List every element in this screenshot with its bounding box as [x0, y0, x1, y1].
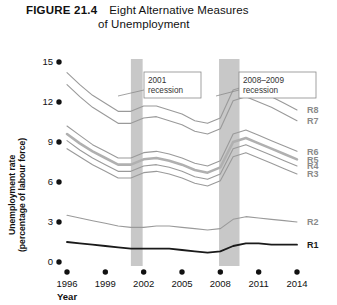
series-line-r3: [67, 149, 297, 186]
x-tick-dot-2014: [294, 269, 299, 274]
y-axis-ticks: 03691215: [42, 56, 61, 267]
recession-callouts: 2001recession2008–2009recession: [118, 72, 316, 98]
series-line-r1: [67, 242, 297, 253]
y-tick-dot-12: [56, 99, 61, 104]
series-end-labels: R8R7R6R5R4R3R2R1: [307, 105, 319, 250]
y-tick-label-0: 0: [48, 256, 53, 267]
figure-container: FIGURE 21.4Eight Alternative Measures of…: [0, 0, 337, 305]
callout-text-line2-2: recession: [243, 86, 278, 95]
x-tick-label-2002: 2002: [133, 278, 154, 289]
x-tick-dot-2002: [141, 269, 146, 274]
x-tick-dot-2005: [179, 269, 184, 274]
series-line-r5: [67, 134, 297, 173]
x-tick-label-2011: 2011: [248, 278, 268, 289]
y-axis-title-line-2: (percentage of labour force): [17, 138, 27, 252]
x-tick-label-1996: 1996: [56, 278, 77, 289]
series-lines: [67, 73, 297, 253]
y-tick-label-3: 3: [48, 216, 53, 227]
x-tick-label-1999: 1999: [95, 278, 116, 289]
x-tick-label-2008: 2008: [210, 278, 231, 289]
y-tick-dot-15: [56, 59, 61, 64]
series-line-r2: [67, 215, 297, 230]
callout-text-line1-2: 2008–2009: [243, 76, 284, 85]
y-axis-title-line-1: Unemployment rate: [7, 155, 17, 235]
chart-plot-area: 03691215 1996199920022005200820112014 R8…: [0, 0, 337, 305]
y-tick-dot-9: [56, 139, 61, 144]
y-tick-label-6: 6: [48, 176, 53, 187]
x-tick-dot-1999: [103, 269, 108, 274]
x-axis-title: Year: [57, 291, 77, 302]
x-tick-label-2005: 2005: [171, 278, 192, 289]
x-tick-dot-2008: [218, 269, 223, 274]
x-axis-ticks: 1996199920022005200820112014: [56, 269, 307, 289]
x-tick-label-2014: 2014: [286, 278, 307, 289]
series-label-r7: R7: [307, 116, 319, 126]
y-tick-dot-6: [56, 179, 61, 184]
series-label-r3: R3: [307, 169, 319, 179]
y-tick-label-12: 12: [42, 96, 53, 107]
y-tick-label-15: 15: [42, 56, 53, 67]
y-tick-dot-0: [56, 259, 61, 264]
x-tick-dot-2011: [256, 269, 261, 274]
series-label-r8: R8: [307, 105, 319, 115]
callout-text-line2-1: recession: [148, 86, 183, 95]
y-tick-dot-3: [56, 219, 61, 224]
callout-text-line1-1: 2001: [148, 76, 167, 85]
y-tick-label-9: 9: [48, 136, 53, 147]
x-tick-dot-1996: [64, 269, 69, 274]
chart-svg: 03691215 1996199920022005200820112014 R8…: [0, 0, 337, 305]
series-label-r2: R2: [307, 217, 319, 227]
series-label-r1: R1: [307, 240, 319, 250]
